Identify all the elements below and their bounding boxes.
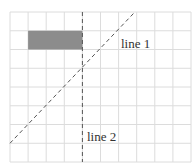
line-1-label: line 1 — [121, 36, 150, 51]
grid-diagram: line 1 line 2 — [0, 0, 196, 167]
shaded-rectangle — [28, 31, 82, 50]
line-2-label: line 2 — [87, 129, 116, 144]
